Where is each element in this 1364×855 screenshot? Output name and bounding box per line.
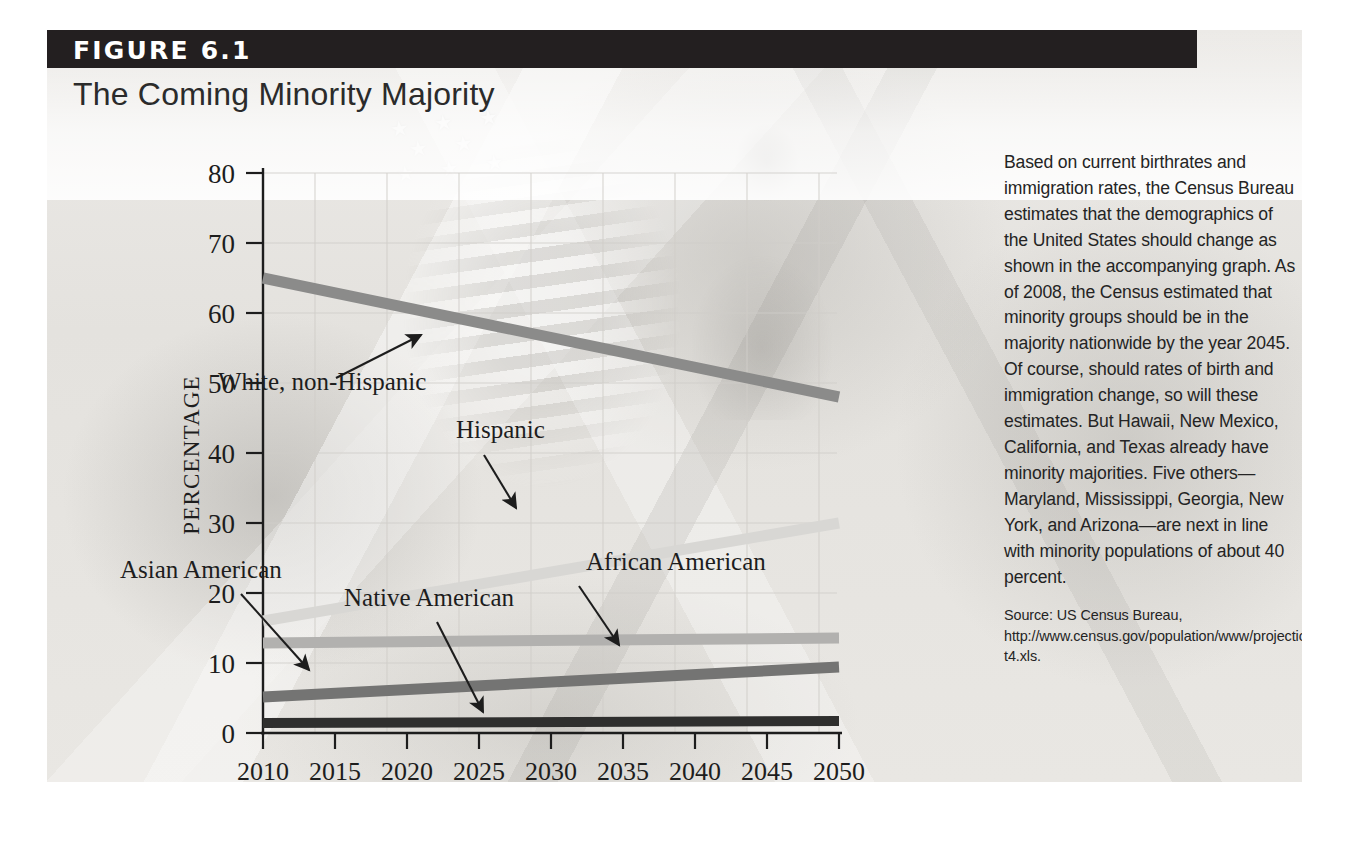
annotation-label-asian-american: Asian American [120, 556, 282, 583]
caption-source-text: Source: US Census Bureau, http://www.cen… [1004, 605, 1296, 667]
chart-axes [261, 168, 842, 735]
leader-native-american [437, 622, 483, 712]
x-tick-label: 2030 [525, 757, 577, 782]
y-tick-label: 60 [208, 299, 235, 329]
figure-title: The Coming Minority Majority [73, 76, 495, 113]
series-line-native-american [263, 721, 839, 723]
x-tick-label: 2020 [381, 757, 433, 782]
y-axis-ticks [246, 173, 263, 733]
y-axis-tick-labels: 80 70 60 50 40 30 20 10 0 [208, 159, 235, 749]
x-tick-label: 2010 [237, 757, 289, 782]
series-line-asian-american [263, 667, 839, 697]
annotation-label-hispanic: Hispanic [456, 416, 545, 443]
chart-gridlines [263, 173, 837, 733]
y-tick-label: 20 [208, 579, 235, 609]
y-tick-label: 30 [208, 509, 235, 539]
annotation-label-native-american: Native American [344, 584, 515, 611]
y-tick-label: 70 [208, 229, 235, 259]
x-axis-ticks [263, 733, 839, 749]
x-tick-label: 2050 [813, 757, 865, 782]
leader-asian-american [241, 594, 309, 670]
annotation-label-african-american: African American [586, 548, 766, 575]
figure-frame: ★ ★ ★ ★ ★★ ★ ★ FIGURE 6.1 The Coming Min… [47, 30, 1302, 782]
y-tick-label: 10 [208, 649, 235, 679]
x-tick-label: 2040 [669, 757, 721, 782]
y-tick-label: 80 [208, 159, 235, 189]
figure-number-label: FIGURE 6.1 [73, 36, 252, 65]
annotation-labels: White, non-Hispanic Hispanic African Ame… [120, 368, 766, 611]
chart-container: 80 70 60 50 40 30 20 10 0 2010 2015 2020… [47, 30, 1007, 782]
y-axis-title: PERCENTAGE [179, 375, 204, 535]
x-tick-label: 2035 [597, 757, 649, 782]
y-tick-label: 40 [208, 439, 235, 469]
x-tick-label: 2025 [453, 757, 505, 782]
x-axis-tick-labels: 2010 2015 2020 2025 2030 2035 2040 2045 … [237, 757, 865, 782]
series-line-african-american [263, 638, 839, 643]
line-chart: 80 70 60 50 40 30 20 10 0 2010 2015 2020… [47, 30, 1007, 782]
page-root: ★ ★ ★ ★ ★★ ★ ★ FIGURE 6.1 The Coming Min… [0, 0, 1364, 855]
x-tick-label: 2015 [309, 757, 361, 782]
y-tick-label: 0 [222, 719, 236, 749]
annotation-label-white-non-hispanic: White, non-Hispanic [218, 368, 426, 395]
leader-hispanic [484, 455, 516, 508]
caption-column: Based on current birthrates and immigrat… [1004, 150, 1296, 667]
caption-body-text: Based on current birthrates and immigrat… [1004, 150, 1296, 590]
x-tick-label: 2045 [741, 757, 793, 782]
